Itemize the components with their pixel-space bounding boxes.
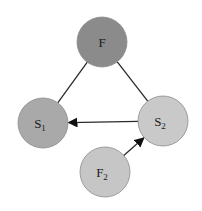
node-s2: S2 — [138, 96, 188, 146]
diagram-canvas: FS1S2F2 — [0, 0, 202, 211]
nodes-layer: FS1S2F2 — [18, 17, 188, 197]
node-subscript-s1: 1 — [41, 123, 46, 133]
node-label-f: F — [98, 35, 105, 50]
node-f: F — [77, 17, 127, 67]
node-s1: S1 — [18, 98, 68, 148]
edge-s2-to-s1-arrow — [68, 121, 138, 122]
edges-layer — [58, 62, 148, 156]
edge-f-to-s1-line — [58, 62, 88, 103]
node-subscript-s2: 2 — [161, 121, 166, 131]
node-f2: F2 — [80, 147, 130, 197]
edge-f-to-s2-line — [117, 62, 147, 101]
edge-f2-to-s2-arrow — [124, 138, 144, 156]
node-subscript-f2: 2 — [103, 172, 108, 182]
